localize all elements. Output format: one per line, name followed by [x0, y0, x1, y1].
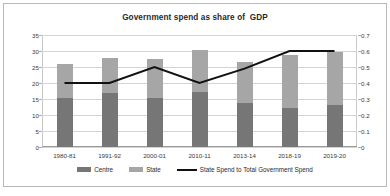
- legend-label-state: State: [146, 166, 161, 173]
- chart-screenshot: Government spend as share of GDP Per cen…: [0, 0, 390, 196]
- y-tick-label-right: 0: [361, 144, 385, 151]
- y-tick-mark-right: [358, 99, 361, 100]
- y-tick-mark-left: [39, 99, 42, 100]
- y-tick-mark-right: [358, 131, 361, 132]
- y-tick-label-left: 0: [21, 144, 39, 151]
- y-tick-label-right: 0.4: [361, 80, 385, 87]
- legend-label-centre: Centre: [94, 166, 113, 173]
- y-tick-mark-left: [39, 83, 42, 84]
- legend-item-state: State: [129, 166, 161, 173]
- y-tick-mark-right: [358, 115, 361, 116]
- y-tick-mark-left: [39, 51, 42, 52]
- line-path-state-share: [65, 51, 335, 83]
- x-tick-label: 2018-19: [278, 152, 301, 159]
- y-tick-label-left: 20: [21, 80, 39, 87]
- gridline: [42, 147, 357, 148]
- x-tick-label: 2013-14: [233, 152, 256, 159]
- x-tick-label: 2000-01: [143, 152, 166, 159]
- y-tick-mark-right: [358, 35, 361, 36]
- y-tick-label-right: 0.1: [361, 128, 385, 135]
- plot-area: [42, 35, 357, 147]
- y-tick-mark-left: [39, 131, 42, 132]
- line-swatch-black-icon: [177, 169, 197, 171]
- x-tick-label: 2010-11: [188, 152, 210, 159]
- y-tick-mark-left: [39, 35, 42, 36]
- bar-swatch-light-icon: [129, 167, 143, 172]
- y-tick-label-left: 35: [21, 32, 39, 39]
- y-tick-label-left: 25: [21, 64, 39, 71]
- y-tick-label-left: 5: [21, 128, 39, 135]
- y-tick-label-left: 30: [21, 48, 39, 55]
- y-tick-label-right: 0.3: [361, 96, 385, 103]
- x-tick-label: 1991-92: [98, 152, 121, 159]
- line-series: [42, 35, 357, 147]
- x-tick-label: 1980-81: [53, 152, 76, 159]
- y-tick-mark-left: [39, 115, 42, 116]
- legend-item-centre: Centre: [77, 166, 113, 173]
- y-tick-label-right: 0.2: [361, 112, 385, 119]
- y-tick-mark-right: [358, 67, 361, 68]
- y-tick-label-right: 0.5: [361, 64, 385, 71]
- y-tick-mark-left: [39, 67, 42, 68]
- chart-title: Government spend as share of GDP: [0, 13, 390, 22]
- chart-legend: Centre State State Spend to Total Govern…: [0, 166, 390, 173]
- y-tick-mark-right: [358, 51, 361, 52]
- legend-label-state-share: State Spend to Total Government Spend: [200, 166, 313, 173]
- y-tick-label-right: 0.6: [361, 48, 385, 55]
- y-tick-mark-right: [358, 83, 361, 84]
- y-tick-label-left: 10: [21, 112, 39, 119]
- bar-swatch-dark-icon: [77, 167, 91, 172]
- y-tick-label-left: 15: [21, 96, 39, 103]
- y-tick-mark-right: [358, 147, 361, 148]
- legend-item-state-share: State Spend to Total Government Spend: [177, 166, 313, 173]
- y-tick-label-right: 0.7: [361, 32, 385, 39]
- x-tick-label: 2019-20: [323, 152, 346, 159]
- y-tick-mark-left: [39, 147, 42, 148]
